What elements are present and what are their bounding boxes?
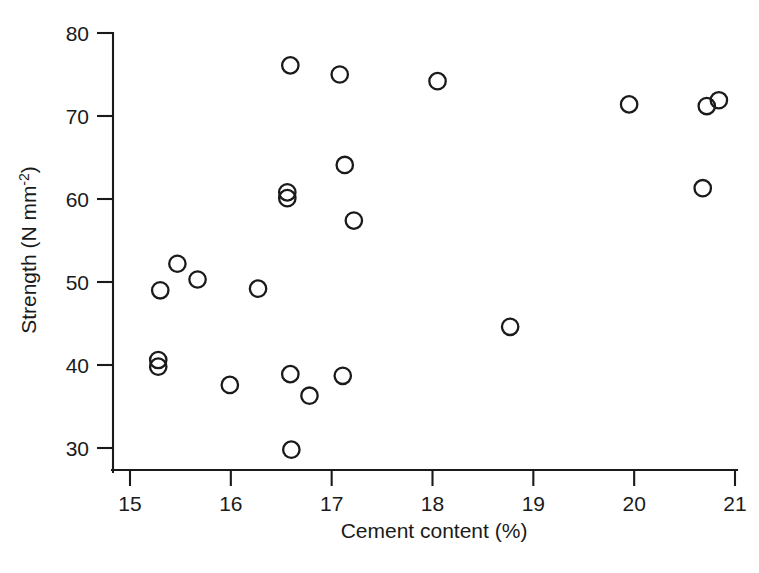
x-axis: 15161718192021 xyxy=(112,470,747,515)
y-tick-label: 70 xyxy=(66,105,89,128)
data-point xyxy=(429,73,445,89)
x-tick-label: 20 xyxy=(622,492,645,515)
y-tick-label: 30 xyxy=(66,437,89,460)
y-tick-label: 60 xyxy=(66,188,89,211)
plot-canvas: 304050607080 15161718192021 Cement conte… xyxy=(0,0,759,573)
data-point xyxy=(250,280,266,296)
data-point xyxy=(621,96,637,112)
x-tick-label: 19 xyxy=(522,492,545,515)
data-point xyxy=(282,57,298,73)
x-tick-label: 16 xyxy=(219,492,242,515)
y-axis-title-group: Strength (N mm-2) xyxy=(16,166,40,334)
y-tick-label: 80 xyxy=(66,22,89,45)
x-axis-title: Cement content (%) xyxy=(341,519,528,542)
data-point xyxy=(335,368,351,384)
data-point xyxy=(283,441,299,457)
data-point xyxy=(332,66,348,82)
y-axis: 304050607080 xyxy=(66,22,113,472)
x-tick-label: 18 xyxy=(421,492,444,515)
data-point xyxy=(346,212,362,228)
data-point xyxy=(502,319,518,335)
y-tick-label: 50 xyxy=(66,271,89,294)
x-tick-label: 17 xyxy=(320,492,343,515)
data-point xyxy=(189,271,205,287)
data-point xyxy=(337,157,353,173)
x-tick-label: 21 xyxy=(723,492,746,515)
data-points-layer xyxy=(150,57,727,458)
x-tick-label: 15 xyxy=(118,492,141,515)
data-point xyxy=(282,366,298,382)
data-point xyxy=(222,377,238,393)
data-point xyxy=(169,256,185,272)
data-point xyxy=(301,388,317,404)
data-point xyxy=(695,180,711,196)
y-tick-label: 40 xyxy=(66,354,89,377)
scatter-plot-figure: 304050607080 15161718192021 Cement conte… xyxy=(0,0,759,573)
data-point xyxy=(152,282,168,298)
y-axis-title: Strength (N mm-2) xyxy=(16,166,40,334)
